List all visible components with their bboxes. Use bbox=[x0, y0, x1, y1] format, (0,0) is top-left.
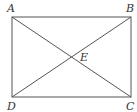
label-a: A bbox=[6, 2, 15, 15]
label-b: B bbox=[125, 2, 134, 15]
rectangle-diagram: A B C D E bbox=[0, 0, 137, 112]
label-c: C bbox=[126, 100, 135, 112]
label-d: D bbox=[6, 100, 16, 112]
label-e: E bbox=[79, 51, 88, 64]
